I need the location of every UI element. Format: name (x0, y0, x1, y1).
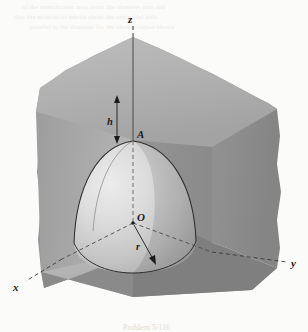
x-axis-label: x (12, 281, 19, 293)
figure-caption: Problem 5/116 (123, 323, 170, 332)
z-axis-label: z (127, 13, 133, 25)
r-label: r (136, 241, 140, 252)
point-O-marker (131, 221, 134, 224)
point-O-label: O (137, 211, 145, 223)
ghost-line-3: parallel to the diameter for the shaded … (30, 23, 174, 30)
diagram-svg: of the semicircular area about the diame… (0, 0, 308, 332)
h-label: h (107, 116, 113, 127)
ghost-line-1: of the semicircular area about the diame… (22, 3, 166, 10)
page-bleed-through-text: of the semicircular area about the diame… (14, 3, 174, 30)
figure-container: of the semicircular area about the diame… (0, 0, 308, 332)
point-A-label: A (136, 128, 144, 140)
ghost-line-2: also the moment of inertia about the cen… (14, 13, 157, 20)
y-axis-label: y (289, 257, 296, 269)
